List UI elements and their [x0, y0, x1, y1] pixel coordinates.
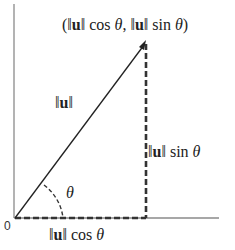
- hypotenuse-label: ‖u‖: [55, 95, 73, 111]
- vertical-component-label: ‖u‖ sin θ: [148, 144, 200, 160]
- vector-u: [15, 45, 144, 218]
- point-coordinates-label: (‖u‖ cos θ, ‖u‖ sin θ): [62, 17, 188, 33]
- angle-arc: [44, 185, 63, 218]
- horizontal-component-label: ‖u‖ cos θ: [49, 227, 104, 243]
- vector-components-diagram: [0, 0, 235, 250]
- origin-label: 0: [4, 220, 11, 232]
- angle-theta-label: θ: [66, 185, 74, 201]
